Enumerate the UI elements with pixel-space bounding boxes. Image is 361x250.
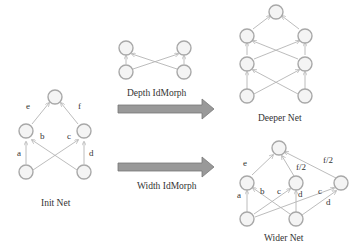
- depth-node-top-right: [177, 41, 191, 55]
- wider-node-hidden-1: [240, 176, 254, 190]
- edge-label-a: a: [17, 148, 21, 158]
- wider-edge-label-f2-a: f/2: [296, 162, 306, 172]
- deeper-net: Deeper Net: [240, 5, 312, 123]
- deeper-node-h1-left: [240, 57, 254, 71]
- wider-edge-label-a: a: [237, 190, 241, 200]
- wider-node-hidden-2: [289, 176, 303, 190]
- wider-edge-label-c1: c: [277, 186, 281, 196]
- width-idmorph: Width IdMorph: [118, 157, 214, 191]
- init-net-caption: Init Net: [41, 198, 71, 208]
- init-node-input-left: [19, 165, 33, 179]
- wider-edge-label-e: e: [243, 158, 247, 168]
- depth-idmorph: Depth IdMorph: [118, 41, 214, 119]
- edge-label-e: e: [26, 101, 30, 111]
- wider-edge-label-f2-b: f/2: [323, 155, 333, 165]
- depth-node-bottom-left: [119, 65, 133, 79]
- wider-edge-label-d2: d: [326, 197, 331, 207]
- wider-node-input-right: [289, 212, 303, 226]
- wider-node-hidden-3: [334, 176, 348, 190]
- init-net: e f b c a d Init Net: [17, 90, 94, 208]
- deeper-node-h1-right: [298, 57, 312, 71]
- deeper-node-h2-right: [298, 29, 312, 43]
- wider-net-caption: Wider Net: [264, 233, 304, 243]
- wider-node-input-left: [240, 212, 254, 226]
- wider-edge-label-c2: c: [318, 186, 322, 196]
- width-morph-arrow: [118, 157, 214, 177]
- wider-edge-label-d1: d: [298, 189, 303, 199]
- deeper-node-top: [269, 5, 283, 19]
- deeper-node-h2-left: [240, 29, 254, 43]
- init-node-top: [48, 90, 62, 104]
- init-node-hidden-right: [77, 124, 91, 138]
- edge-label-f: f: [78, 101, 81, 111]
- edge-label-b: b: [40, 131, 45, 141]
- depth-node-top-left: [119, 41, 133, 55]
- depth-node-bottom-right: [177, 65, 191, 79]
- init-node-hidden-left: [19, 124, 33, 138]
- deeper-node-input-right: [298, 89, 312, 103]
- deeper-node-input-left: [240, 89, 254, 103]
- wider-edge-label-b: b: [260, 186, 265, 196]
- wider-net: e f/2 f/2 a b c d c d Wider Net: [237, 141, 348, 243]
- deeper-net-caption: Deeper Net: [258, 113, 302, 123]
- edge-label-d: d: [89, 148, 94, 158]
- morphism-diagram: e f b c a d Init Net Depth IdMorph: [0, 0, 361, 250]
- wider-node-top: [272, 141, 286, 155]
- width-idmorph-caption: Width IdMorph: [137, 181, 197, 191]
- edge-label-c: c: [67, 131, 71, 141]
- depth-morph-arrow: [118, 99, 214, 119]
- depth-idmorph-caption: Depth IdMorph: [127, 88, 187, 98]
- init-node-input-right: [77, 165, 91, 179]
